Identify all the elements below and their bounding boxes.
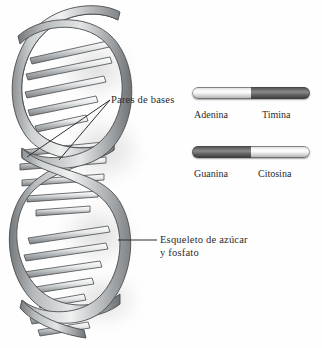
label-backbone-line2: y fosfato <box>160 246 280 259</box>
helix-svg <box>0 0 170 348</box>
caption-citosina: Citosina <box>258 168 291 179</box>
bar-outline <box>192 146 310 158</box>
base-pair-bar-guanina-citosina <box>192 146 310 158</box>
label-backbone-line1: Esqueleto de azúcar <box>160 234 248 245</box>
bar-outline <box>192 87 310 99</box>
dna-figure: Pares de bases Esqueleto de azúcar y fos… <box>0 0 322 348</box>
caption-adenina: Adenina <box>194 109 228 120</box>
base-pair-bar-adenina-timina <box>192 87 310 99</box>
caption-guanina: Guanina <box>194 168 228 179</box>
label-backbone: Esqueleto de azúcar y fosfato <box>160 233 280 259</box>
caption-timina: Timina <box>262 109 291 120</box>
label-base-pairs: Pares de bases <box>111 93 174 106</box>
dna-double-helix <box>0 0 170 348</box>
